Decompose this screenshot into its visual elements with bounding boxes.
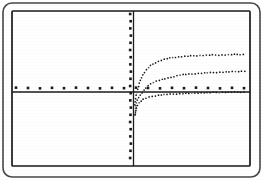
- curve-dot: [215, 54, 217, 56]
- curve-dot: [204, 72, 206, 74]
- curve-dot: [175, 57, 177, 59]
- curve-dot: [194, 92, 196, 94]
- y-axis-marker: [129, 99, 132, 102]
- curve-dot: [145, 97, 147, 99]
- curve-dot: [167, 77, 169, 79]
- curve-dot: [136, 92, 138, 94]
- curve-dot: [169, 93, 171, 95]
- curve-dot: [219, 71, 221, 73]
- y-axis-marker: [130, 34, 133, 37]
- curve-dot: [148, 96, 150, 98]
- curve-dot: [185, 92, 187, 94]
- curve-dot: [135, 111, 137, 113]
- lower-log-curve: [135, 91, 245, 115]
- curve-dot: [158, 94, 160, 96]
- graph-canvas: [0, 0, 263, 180]
- middle-log-curve: [134, 70, 245, 115]
- curve-dot: [200, 92, 202, 94]
- y-axis-marker: [129, 85, 132, 88]
- y-axis-marker: [129, 13, 132, 16]
- curve-dot: [135, 105, 137, 107]
- y-axis-marker: [130, 70, 133, 73]
- y-axis-marker: [129, 63, 132, 66]
- curve-dot: [210, 72, 212, 74]
- curve-dot: [182, 74, 184, 76]
- x-axis-marker: [207, 87, 210, 90]
- x-axis-marker: [195, 86, 198, 89]
- curve-dot: [172, 57, 174, 59]
- y-axis-marker: [129, 92, 132, 95]
- x-axis-marker: [183, 87, 186, 90]
- curve-dot: [225, 71, 227, 73]
- y-axis-marker: [129, 20, 132, 23]
- curve-dot: [181, 56, 183, 58]
- curve-dot: [145, 87, 147, 89]
- curve-dot: [212, 91, 214, 93]
- y-axis-marker-group: [129, 13, 132, 160]
- y-axis-marker: [129, 150, 132, 153]
- curve-dot: [209, 92, 211, 94]
- curve-dot: [227, 91, 229, 93]
- curve-dot: [237, 91, 239, 93]
- x-axis-marker: [159, 87, 162, 90]
- curve-dot: [170, 77, 172, 79]
- curve-dot: [138, 86, 140, 88]
- curve-dot: [199, 55, 201, 57]
- curve-dot: [160, 60, 162, 62]
- y-axis-marker: [129, 27, 132, 30]
- curve-dot: [196, 55, 198, 57]
- curve-dot: [148, 67, 150, 69]
- curve-dot: [206, 92, 208, 94]
- y-axis-marker: [129, 135, 132, 138]
- curve-dot: [218, 54, 220, 56]
- curve-dot: [224, 54, 226, 56]
- curve-dot: [184, 55, 186, 57]
- curve-dot: [222, 91, 224, 93]
- curve-dot: [209, 54, 211, 56]
- curve-dot: [185, 74, 187, 76]
- y-axis-marker: [129, 114, 132, 117]
- curve-dot: [187, 55, 189, 57]
- figure-root: [0, 0, 263, 180]
- x-axis-marker: [171, 87, 174, 90]
- curve-dot: [166, 58, 168, 60]
- curve-dot: [179, 74, 181, 76]
- x-axis-marker: [111, 87, 114, 90]
- curve-dot: [150, 83, 152, 85]
- curve-dot: [190, 55, 192, 57]
- y-axis-marker: [129, 121, 132, 124]
- x-axis-marker: [219, 87, 222, 90]
- curve-dot: [136, 107, 138, 109]
- curve-dot: [191, 92, 193, 94]
- curve-dot: [152, 82, 154, 84]
- curve-dot: [203, 92, 205, 94]
- curve-dot: [135, 98, 137, 100]
- curve-dot: [228, 54, 230, 56]
- curve-dot: [135, 110, 137, 112]
- curve-dot: [206, 54, 208, 56]
- curve-dot: [243, 54, 245, 56]
- curve-dot: [176, 75, 178, 77]
- curve-dot: [138, 102, 140, 104]
- x-axis-marker: [123, 87, 126, 90]
- curve-dot: [161, 78, 163, 80]
- curve-dot: [191, 73, 193, 75]
- curve-dot: [182, 93, 184, 95]
- curve-dot: [136, 99, 138, 101]
- curve-dot: [241, 70, 243, 72]
- x-axis-marker: [51, 87, 54, 90]
- x-axis-marker: [147, 87, 150, 90]
- y-axis-marker: [130, 142, 133, 145]
- curve-dot: [151, 96, 153, 98]
- x-axis-marker: [27, 87, 30, 90]
- x-axis-marker: [243, 87, 246, 90]
- curve-dot: [155, 80, 157, 82]
- x-axis-marker: [99, 87, 102, 90]
- curve-dot: [235, 71, 237, 73]
- curve-dot: [206, 72, 208, 74]
- curve-dot: [135, 94, 137, 96]
- x-axis-marker: [87, 87, 90, 90]
- curve-dot: [173, 93, 175, 95]
- curve-dot: [193, 55, 195, 57]
- curve-dot: [197, 72, 199, 74]
